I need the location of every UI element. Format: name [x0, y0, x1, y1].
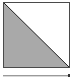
diagonal-split-icon [4, 3, 69, 67]
slider-handle[interactable] [68, 74, 70, 77]
slider-track[interactable] [3, 75, 70, 77]
diagonal-swatch-preview[interactable] [3, 2, 70, 68]
